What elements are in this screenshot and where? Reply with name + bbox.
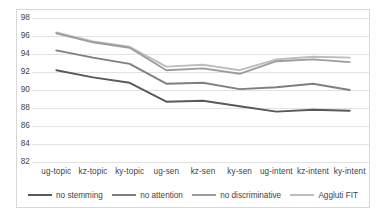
y-axis-tick-label: 84	[12, 139, 30, 148]
y-axis-tick-label: 90	[12, 85, 30, 94]
legend-item[interactable]: no attention	[112, 191, 183, 200]
y-axis-tick-label: 88	[12, 103, 30, 112]
legend-label: no stemming	[56, 191, 103, 200]
x-axis-tick-label: ug-topic	[41, 167, 71, 176]
legend-swatch-line-icon	[192, 194, 216, 196]
legend-label: no attention	[140, 191, 183, 200]
x-axis-tick-label: kz-intent	[297, 167, 329, 176]
x-axis-tick-label: kz-sen	[191, 167, 216, 176]
legend-item[interactable]: no stemming	[28, 191, 103, 200]
y-axis-tick-label: 86	[12, 121, 30, 130]
legend-swatch-line-icon	[112, 194, 136, 196]
x-axis-tick-label: kz-topic	[78, 167, 107, 176]
x-axis-tick-label: ug-sen	[154, 167, 180, 176]
y-axis-tick-label: 96	[12, 31, 30, 40]
chart-legend: no stemmingno attentionno discriminative…	[20, 187, 366, 203]
legend-item[interactable]: Aggluti FIT	[290, 191, 358, 200]
y-axis-tick-label: 98	[12, 13, 30, 22]
series-line	[56, 70, 349, 111]
legend-swatch-line-icon	[290, 194, 314, 196]
y-axis-tick-label: 92	[12, 67, 30, 76]
legend-item[interactable]: no discriminative	[192, 191, 281, 200]
x-axis-tick-label: ky-topic	[115, 167, 144, 176]
series-line	[56, 32, 349, 70]
x-axis-tick-label: ky-intent	[334, 167, 366, 176]
x-axis-tick-label: ug-intent	[260, 167, 293, 176]
legend-label: Aggluti FIT	[318, 191, 358, 200]
chart-container: 989694929088868482 ug-topickz-topicky-to…	[0, 0, 382, 219]
x-axis-tick-label: ky-sen	[227, 167, 252, 176]
legend-label: no discriminative	[220, 191, 281, 200]
y-axis-tick-label: 82	[12, 157, 30, 166]
y-axis-tick-label: 94	[12, 49, 30, 58]
legend-swatch-line-icon	[28, 194, 52, 196]
